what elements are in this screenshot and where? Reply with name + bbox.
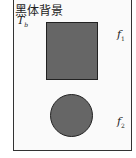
circle-target xyxy=(50,94,93,137)
background-temperature-label: Tb xyxy=(17,14,28,28)
label-f1: f1 xyxy=(117,28,125,42)
square-target xyxy=(46,22,98,80)
label-f2: f2 xyxy=(117,115,125,129)
